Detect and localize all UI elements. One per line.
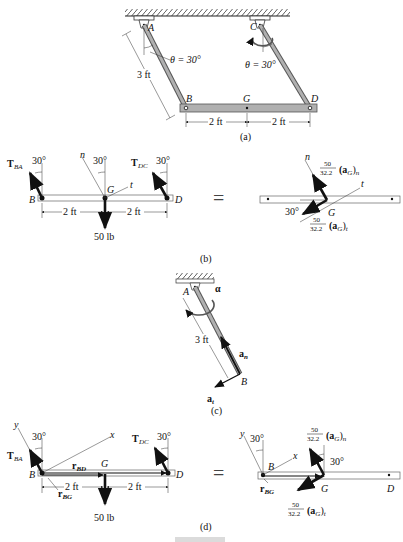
ceiling-hatch [125,9,290,16]
point-b-c: B [241,376,247,387]
figure-caption-cut [175,537,225,542]
point-a-c: A [182,286,190,297]
length-label-c: 3 ft [195,334,209,345]
axis-n-label: n [80,149,85,160]
axis-y-label-k: y [239,428,245,439]
link-length-label: 3 ft [137,69,151,80]
point-g-d: G [101,458,108,469]
point-d-b: D [174,194,183,205]
axis-t-label-k: t [361,178,364,189]
point-b-d: B [29,469,35,480]
svg-text:50: 50 [311,426,319,434]
force-t-ba-label-d: T [7,450,14,461]
axis-t-label: t [130,179,133,190]
point-b-b: B [29,194,35,205]
term-t: (aG)t [329,220,349,233]
angle-b-k: 30° [250,433,264,444]
angle-d-d: 30° [157,431,171,442]
accel-n-label: an [239,348,248,361]
dim-left-b: 2 ft [63,206,77,217]
force-t-dc-label-d: T [132,433,139,444]
equals-sign-d: = [213,462,224,484]
force-t-ba-label: T [7,158,14,169]
svg-text:32.2: 32.2 [307,435,320,443]
angle-b-d: 30° [32,431,46,442]
svg-text:50: 50 [313,216,321,224]
dim-right: 2 ft [272,116,286,127]
accel-t-arrow [215,374,240,387]
panel-d-kinetic: y 30° x B rBG 30° G D 50 32.2 (aG)n 50 3… [200,426,400,533]
term-n-d: (aG)n [326,430,347,443]
alpha-label: α [215,283,221,294]
angle-k-b: 30° [285,206,299,217]
weight-label: 50 lb [94,231,114,242]
panel-a-caption: (a) [240,131,251,143]
svg-text:DC: DC [137,162,148,170]
svg-text:32.2: 32.2 [288,510,301,518]
angle-label-right: θ = 30° [245,59,276,70]
svg-text:50: 50 [324,160,332,168]
point-d-k: D [386,483,395,494]
point-g-k-d: G [321,483,328,494]
angle-g-k: 30° [330,456,344,467]
r-bg-label-k: rBG [260,483,274,496]
point-g: G [243,93,250,104]
angle-b: 30° [32,155,46,166]
force-t-dc-arrow [153,173,167,198]
accel-n-arrow [221,337,240,374]
svg-text:BA: BA [14,163,23,171]
point-g-k: G [328,207,335,218]
dim-left: 2 ft [209,116,223,127]
panel-a: θ = 30° θ = 30° A B C D G 3 ft 2 ft 2 ft… [122,9,319,143]
axis-x-label: x [109,429,115,440]
mass-accel-n-arrow-d [310,449,324,475]
angle-g: 30° [93,155,107,166]
panel-d-caption: (d) [200,521,212,533]
panel-b-fbd: 30° T BA 30° T DC n 30° t G B D 50 lb 2 … [7,149,224,242]
axis-n-label-k: n [305,151,310,162]
force-t-dc-arrow-d [155,448,168,473]
panel-d-fbd: y 30° T BA x rBD rBG 30° T DC B G D 50 l… [7,419,224,523]
figure-canvas: θ = 30° θ = 30° A B C D G 3 ft 2 ft 2 ft… [0,0,403,542]
svg-text:32.2: 32.2 [320,169,333,177]
point-c: C [250,21,257,32]
svg-text:50: 50 [292,501,300,509]
dim-right-d: 2 ft [128,481,142,492]
point-d: D [310,93,319,104]
panel-b-caption: (b) [200,253,212,265]
point-g-b: G [107,184,114,195]
panel-c: A α 3 ft an at B (c) [176,273,248,417]
point-b-k: B [268,461,274,472]
svg-text:BA: BA [14,455,23,463]
term-t-d: (aG)t [307,505,327,518]
axis-x-label-k: x [292,450,298,461]
svg-text:DC: DC [138,438,149,446]
panel-c-caption: (c) [211,405,222,417]
force-t-dc-label: T [131,157,138,168]
equals-sign-b: = [213,187,224,209]
dim-right-b: 2 ft [127,206,141,217]
point-b: B [186,93,192,104]
bar-bd [180,104,317,112]
angle-label-left: θ = 30° [170,54,201,65]
angular-accel-arrow-icon [186,300,214,315]
axis-y-label: y [13,419,19,430]
weight-label-d: 50 lb [94,512,114,523]
panel-b-kinetic: n t 30° G 50 32.2 (aG)n 50 32.2 (aG)t (b… [200,151,400,265]
svg-text:32.2: 32.2 [310,225,323,233]
dim-left-d: 2 ft [65,481,79,492]
term-n: (aG)n [339,164,360,177]
point-a: A [147,22,155,33]
point-d-d: D [175,469,184,480]
angle-d: 30° [156,155,170,166]
